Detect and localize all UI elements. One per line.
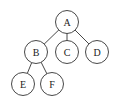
node-label: E [20,79,26,90]
node-a: A [56,11,79,34]
node-label: C [64,47,71,58]
tree-diagram: A B C D E F [0,0,116,104]
node-d: D [86,41,109,64]
node-e: E [12,73,35,96]
node-label: A [63,17,71,28]
node-label: D [93,47,100,58]
node-label: B [33,47,40,58]
node-label: F [49,79,55,90]
node-f: F [41,73,64,96]
node-c: C [56,41,79,64]
node-b: B [25,41,48,64]
